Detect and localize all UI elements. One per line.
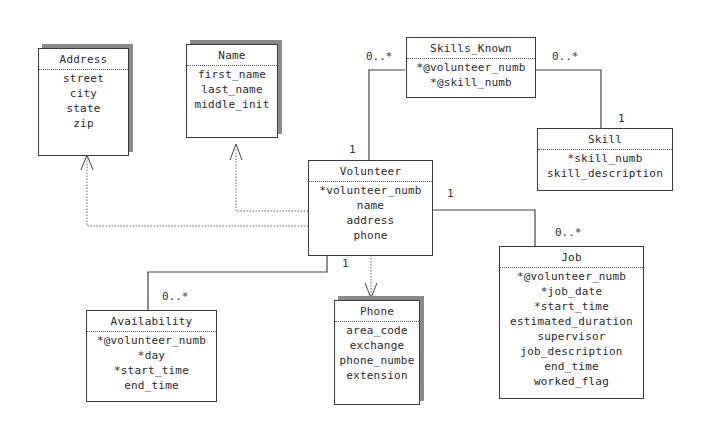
multiplicity-label: 1 [342, 257, 349, 270]
attribute: *@skill_numb [407, 75, 535, 90]
multiplicity-label: 1 [618, 112, 625, 125]
attribute: zip [39, 116, 128, 131]
multiplicity-label: 1 [349, 143, 356, 156]
attribute: state [39, 101, 128, 116]
class-title: Skills_Known [407, 38, 535, 59]
multiplicity-label: 0..* [366, 50, 393, 63]
class-attributes: area_code exchange phone_numbe extension [335, 322, 419, 383]
class-attributes: *@volunteer_numb *@skill_numb [407, 59, 535, 90]
class-attributes: *@volunteer_numb *day *start_time end_ti… [87, 332, 216, 393]
class-name[interactable]: Name first_name last_name middle_init [186, 44, 278, 138]
attribute: phone_numbe [335, 353, 419, 368]
class-address[interactable]: Address street city state zip [38, 48, 129, 156]
attribute: worked_flag [500, 374, 643, 389]
class-availability[interactable]: Availability *@volunteer_numb *day *star… [86, 310, 217, 402]
multiplicity-label: 0..* [552, 50, 579, 63]
uml-diagram-canvas: Address street city state zip Name first… [0, 0, 702, 431]
attribute: first_name [187, 67, 277, 82]
attribute: extension [335, 368, 419, 383]
attribute: address [309, 213, 432, 228]
attribute: *skill_numb [538, 151, 672, 166]
class-title: Skill [538, 129, 672, 150]
class-phone[interactable]: Phone area_code exchange phone_numbe ext… [334, 300, 420, 405]
attribute: end_time [500, 359, 643, 374]
attribute: *start_time [500, 299, 643, 314]
attribute: end_time [87, 378, 216, 393]
class-title: Job [500, 247, 643, 268]
class-title: Volunteer [309, 161, 432, 182]
class-attributes: street city state zip [39, 70, 128, 131]
dependency-volunteer-name [236, 148, 308, 211]
class-title: Availability [87, 311, 216, 332]
association-volunteer-job [432, 210, 535, 246]
attribute: phone [309, 228, 432, 243]
multiplicity-label: 0..* [555, 226, 582, 239]
class-attributes: *volunteer_numb name address phone [309, 182, 432, 243]
multiplicity-label: 1 [447, 187, 454, 200]
attribute: *@volunteer_numb [407, 60, 535, 75]
attribute: last_name [187, 82, 277, 97]
attribute: job_description [500, 344, 643, 359]
class-skill[interactable]: Skill *skill_numb skill_description [537, 128, 673, 191]
attribute: supervisor [500, 329, 643, 344]
arrowhead-name-icon [230, 144, 242, 160]
class-attributes: first_name last_name middle_init [187, 66, 277, 112]
attribute: city [39, 86, 128, 101]
attribute: *@volunteer_numb [500, 269, 643, 284]
attribute: street [39, 71, 128, 86]
attribute: area_code [335, 323, 419, 338]
class-title: Name [187, 45, 277, 66]
attribute: *day [87, 348, 216, 363]
attribute: skill_description [538, 166, 672, 181]
attribute: *start_time [87, 363, 216, 378]
attribute: exchange [335, 338, 419, 353]
class-title: Phone [335, 301, 419, 322]
class-volunteer[interactable]: Volunteer *volunteer_numb name address p… [308, 160, 433, 256]
class-attributes: *@volunteer_numb *job_date *start_time e… [500, 268, 643, 389]
attribute: *job_date [500, 284, 643, 299]
class-attributes: *skill_numb skill_description [538, 150, 672, 181]
class-skills-known[interactable]: Skills_Known *@volunteer_numb *@skill_nu… [406, 37, 536, 98]
attribute: middle_init [187, 97, 277, 112]
association-skills-known-skill [535, 70, 601, 128]
association-volunteer-skills-known [369, 70, 405, 160]
class-title: Address [39, 49, 128, 70]
dependency-volunteer-address [87, 157, 308, 226]
attribute: name [309, 198, 432, 213]
class-job[interactable]: Job *@volunteer_numb *job_date *start_ti… [499, 246, 644, 399]
attribute: *@volunteer_numb [87, 333, 216, 348]
multiplicity-label: 0..* [162, 290, 189, 303]
attribute: estimated_duration [500, 314, 643, 329]
attribute: *volunteer_numb [309, 183, 432, 198]
